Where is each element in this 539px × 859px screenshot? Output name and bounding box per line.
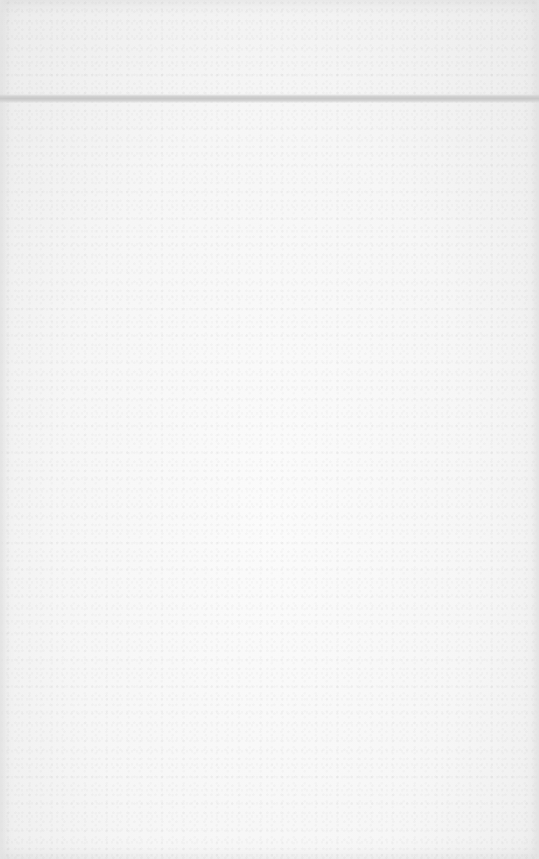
page-edge-left <box>0 0 6 859</box>
document-page <box>0 0 539 859</box>
page-edge-right <box>533 0 539 859</box>
paper-texture <box>0 0 539 859</box>
header-rule <box>0 94 539 103</box>
